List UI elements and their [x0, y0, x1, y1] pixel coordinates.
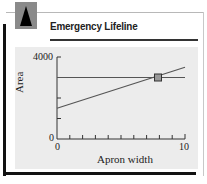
- x-min-label: 0: [55, 141, 60, 152]
- y-axis-label: Area: [13, 72, 25, 93]
- y-max-label: 4000: [33, 51, 53, 62]
- intersection-marker: [155, 74, 162, 81]
- y-min-label: 0: [49, 132, 54, 143]
- x-max-label: 10: [179, 141, 189, 152]
- series-increasing-area: [57, 67, 185, 108]
- x-axis-label: Apron width: [97, 153, 153, 165]
